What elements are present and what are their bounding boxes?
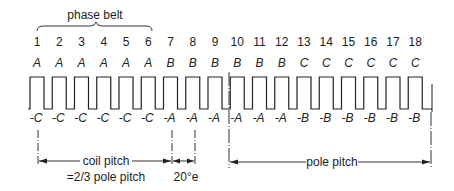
slot-phase-bottom: -C (141, 112, 154, 124)
slot-phase-top: C (344, 57, 353, 69)
slot-number: 3 (78, 36, 85, 48)
slot-phase-bottom: -A (186, 112, 198, 124)
slot-phase-top: C (366, 57, 375, 69)
slot-number: 12 (275, 36, 288, 48)
slot-phase-bottom: -A (275, 112, 287, 124)
slot-phase-top: A (33, 57, 41, 69)
arrowhead-icon (163, 159, 171, 164)
slot-number: 18 (409, 36, 422, 48)
slot-number: 8 (189, 36, 196, 48)
slot-phase-top: A (100, 57, 108, 69)
slot-phase-bottom: -C (119, 112, 132, 124)
slot-phase-bottom: -C (52, 112, 65, 124)
slot-phase-top: B (255, 57, 263, 69)
slot-phase-bottom: -B (342, 112, 354, 124)
slot-angle-label: 20°e (174, 171, 199, 183)
arrowhead-icon (230, 160, 238, 165)
slot-phase-bottom: -C (30, 112, 43, 124)
slot-phase-top: A (55, 57, 63, 69)
slot-phase-bottom: -B (319, 112, 331, 124)
arrowhead-icon (422, 160, 430, 165)
phase-belt-label: phase belt (67, 9, 122, 21)
slot-number: 13 (297, 36, 310, 48)
slot-phase-bottom: -C (96, 112, 109, 124)
slot-phase-top: C (300, 57, 309, 69)
slot-phase-bottom: -A (253, 112, 265, 124)
slot-phase-top: C (411, 57, 420, 69)
slot-phase-top: B (166, 57, 174, 69)
slot-phase-top: C (389, 57, 398, 69)
slot-phase-bottom: -A (164, 112, 176, 124)
arrowhead-icon (187, 159, 194, 164)
slot-phase-top: B (189, 57, 197, 69)
slot-number: 14 (320, 36, 333, 48)
slot-number: 2 (56, 36, 63, 48)
slot-phase-top: B (211, 57, 219, 69)
coil-pitch-equation: =2/3 pole pitch (67, 171, 145, 183)
arrowhead-icon (173, 159, 180, 164)
slot-number: 9 (212, 36, 219, 48)
slot-phase-bottom: -A (230, 112, 242, 124)
slot-phase-bottom: -B (297, 112, 309, 124)
slot-phase-top: C (322, 57, 331, 69)
slot-phase-bottom: -B (408, 112, 420, 124)
slot-number: 5 (123, 36, 130, 48)
slot-number: 17 (386, 36, 399, 48)
winding-diagram (0, 0, 454, 191)
slot-number: 16 (364, 36, 377, 48)
slot-phase-bottom: -B (364, 112, 376, 124)
slot-number: 11 (253, 36, 265, 48)
coil-pitch-label: coil pitch (83, 155, 130, 167)
slot-number: 4 (100, 36, 107, 48)
slot-phase-top: A (144, 57, 152, 69)
slot-number: 1 (34, 36, 41, 48)
slot-phase-top: B (278, 57, 286, 69)
slot-phase-top: B (233, 57, 241, 69)
slot-waveform (28, 77, 432, 109)
slot-number: 10 (231, 36, 244, 48)
phase-belt-brace (37, 22, 152, 31)
slot-phase-top: A (122, 57, 130, 69)
slot-number: 7 (167, 36, 174, 48)
slot-phase-top: A (77, 57, 85, 69)
pole-pitch-label: pole pitch (306, 156, 357, 168)
arrowhead-icon (39, 159, 47, 164)
slot-phase-bottom: -B (386, 112, 398, 124)
slot-number: 6 (145, 36, 152, 48)
slot-number: 15 (342, 36, 355, 48)
slot-phase-bottom: -C (74, 112, 87, 124)
slot-phase-bottom: -A (208, 112, 220, 124)
